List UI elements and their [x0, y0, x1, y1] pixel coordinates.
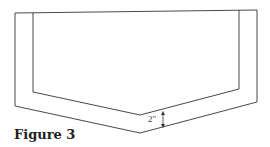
band-diagram: 2" [0, 0, 270, 147]
figure-container: 2" Figure 3 [0, 0, 270, 147]
dimension-label: 2" [148, 114, 157, 124]
inner-outline [33, 10, 239, 115]
dimension-arrow-icon [161, 111, 165, 128]
figure-caption: Figure 3 [14, 127, 75, 142]
